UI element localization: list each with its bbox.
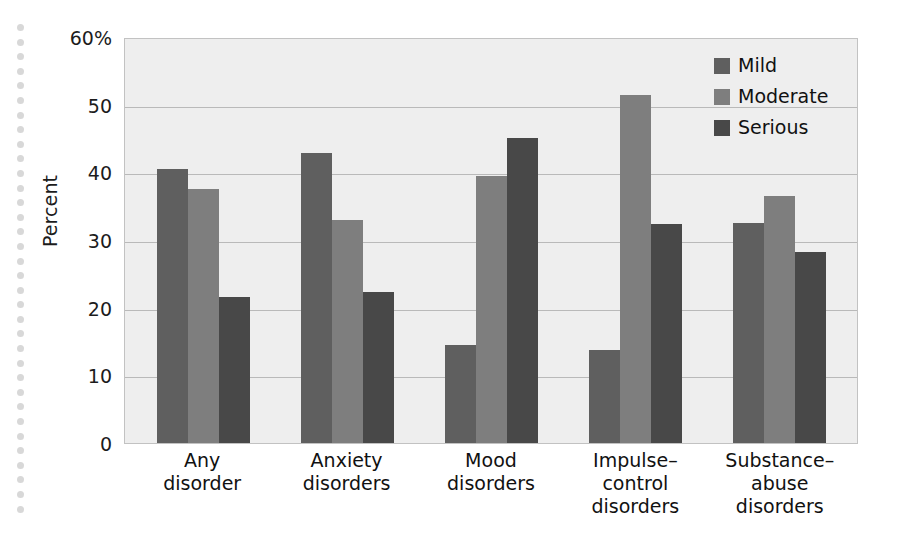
y-tick-label: 60% (70, 27, 112, 49)
bar-mild (733, 223, 764, 443)
y-tick-label: 0 (100, 433, 112, 455)
bar-moderate (188, 189, 219, 443)
bar-serious (219, 297, 250, 443)
bar-group (301, 39, 394, 443)
bar-moderate (764, 196, 795, 443)
legend-item-mild: Mild (714, 52, 828, 79)
bar-serious (795, 252, 826, 443)
x-category-label: Substance–abusedisorders (715, 449, 845, 541)
bar-group (589, 39, 682, 443)
y-tick-label: 10 (88, 365, 112, 387)
bar-moderate (620, 95, 651, 443)
y-tick-label: 30 (88, 230, 112, 252)
bar-serious (363, 292, 394, 443)
legend-swatch-icon (714, 89, 730, 105)
x-category-label: Anxietydisorders (282, 449, 412, 541)
legend-swatch-icon (714, 58, 730, 74)
legend-label: Mild (738, 56, 777, 75)
x-category-label: Impulse–controldisorders (570, 449, 700, 541)
bar-group (445, 39, 538, 443)
bar-moderate (332, 220, 363, 443)
bar-group (157, 39, 250, 443)
x-category-label: Anydisorder (137, 449, 267, 541)
bar-mild (301, 153, 332, 443)
chart-legend: MildModerateSerious (714, 52, 828, 141)
legend-item-serious: Serious (714, 114, 828, 141)
y-tick-label: 40 (88, 162, 112, 184)
legend-item-moderate: Moderate (714, 83, 828, 110)
bar-mild (589, 350, 620, 443)
bar-mild (445, 345, 476, 443)
bar-mild (157, 169, 188, 443)
bar-serious (651, 224, 682, 443)
x-axis-category-labels: AnydisorderAnxietydisordersMooddisorders… (124, 449, 858, 541)
y-axis-tick-labels: 60%50403020100 (56, 38, 118, 444)
y-tick-label: 20 (88, 298, 112, 320)
legend-swatch-icon (714, 120, 730, 136)
bar-serious (507, 138, 538, 443)
bar-moderate (476, 176, 507, 443)
y-tick-label: 50 (88, 95, 112, 117)
bar-chart-figure: Percent 60%50403020100 MildModerateSerio… (0, 0, 903, 545)
legend-label: Moderate (738, 87, 828, 106)
legend-label: Serious (738, 118, 808, 137)
x-category-label: Mooddisorders (426, 449, 556, 541)
